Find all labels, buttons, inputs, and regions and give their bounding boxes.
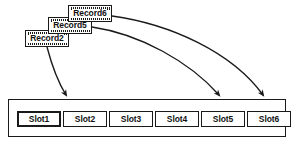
slot-label: Slot2 — [75, 115, 95, 124]
record-slot-diagram: Slot1 Slot2 Slot3 Slot4 Slot5 Slot6 Reco… — [0, 0, 295, 142]
slot-container: Slot1 Slot2 Slot3 Slot4 Slot5 Slot6 — [8, 99, 286, 137]
slot-label: Slot6 — [259, 115, 279, 124]
slot-label: Slot1 — [29, 115, 49, 124]
slot-label: Slot3 — [121, 115, 141, 124]
record-label: Record6 — [73, 9, 107, 18]
arrow-record2-to-slot2 — [47, 47, 66, 95]
slot-item-6[interactable]: Slot6 — [247, 111, 291, 127]
slot-item-3[interactable]: Slot3 — [109, 111, 153, 127]
record-box-record6[interactable]: Record6 — [68, 5, 112, 22]
arrow-record5-to-slot5 — [92, 27, 219, 95]
record-label: Record5 — [53, 21, 87, 30]
slot-item-4[interactable]: Slot4 — [155, 111, 199, 127]
arrow-record6-to-slot6 — [112, 16, 263, 95]
slot-label: Slot5 — [213, 115, 233, 124]
slot-item-1[interactable]: Slot1 — [17, 111, 61, 127]
slot-label: Slot4 — [167, 115, 187, 124]
record-label: Record2 — [30, 34, 64, 43]
slot-item-5[interactable]: Slot5 — [201, 111, 245, 127]
slot-item-2[interactable]: Slot2 — [63, 111, 107, 127]
